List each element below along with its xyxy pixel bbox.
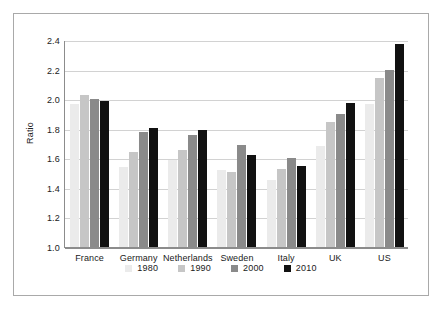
- legend-label: 2010: [296, 263, 317, 273]
- bar[interactable]: [237, 145, 246, 247]
- bar[interactable]: [100, 101, 109, 247]
- y-axis-tick-label: 2.2: [47, 66, 60, 76]
- legend-item[interactable]: 2010: [284, 263, 317, 273]
- y-axis-tick-label: 2.0: [47, 95, 60, 105]
- bar[interactable]: [346, 103, 355, 247]
- legend-label: 2000: [243, 263, 264, 273]
- bar-group: Netherlands: [163, 41, 212, 247]
- bar[interactable]: [316, 146, 325, 247]
- bar[interactable]: [395, 44, 404, 247]
- bar[interactable]: [385, 70, 394, 247]
- x-axis-category-label: Netherlands: [163, 253, 213, 263]
- bar-group: Sweden: [212, 41, 261, 247]
- x-axis-category-label: UK: [329, 253, 342, 263]
- bar[interactable]: [297, 166, 306, 247]
- bar[interactable]: [247, 155, 256, 247]
- chart-legend: 1980199020002010: [14, 263, 428, 273]
- bar[interactable]: [217, 170, 226, 247]
- bar[interactable]: [326, 122, 335, 247]
- bar[interactable]: [168, 160, 177, 247]
- bar[interactable]: [365, 104, 374, 247]
- bar[interactable]: [198, 130, 207, 247]
- bar[interactable]: [119, 167, 128, 247]
- y-axis-tick-label: 1.2: [47, 213, 60, 223]
- legend-item[interactable]: 1980: [125, 263, 158, 273]
- bar[interactable]: [70, 104, 79, 247]
- chart-frame: Ratio 2.42.22.01.81.61.41.21.0 FranceGer…: [13, 13, 429, 296]
- legend-item[interactable]: 2000: [231, 263, 264, 273]
- legend-label: 1980: [137, 263, 158, 273]
- bar[interactable]: [139, 132, 148, 247]
- y-axis-tick-label: 2.4: [47, 36, 60, 46]
- legend-swatch-icon: [231, 265, 238, 272]
- legend-label: 1990: [190, 263, 211, 273]
- bar[interactable]: [149, 128, 158, 247]
- bar[interactable]: [178, 150, 187, 247]
- y-axis-tick-label: 1.8: [47, 125, 60, 135]
- y-axis-tick-label: 1.4: [47, 184, 60, 194]
- x-axis-category-label: US: [378, 253, 391, 263]
- y-axis-tick-label: 1.0: [47, 243, 60, 253]
- y-axis-title: Ratio: [25, 122, 35, 144]
- bar[interactable]: [277, 169, 286, 247]
- legend-item[interactable]: 1990: [178, 263, 211, 273]
- x-axis-category-label: France: [75, 253, 104, 263]
- x-axis-category-label: Germany: [120, 253, 158, 263]
- bar[interactable]: [188, 135, 197, 247]
- bar-group: France: [65, 41, 114, 247]
- bar[interactable]: [90, 99, 99, 247]
- bar[interactable]: [227, 172, 236, 247]
- x-axis-category-label: Italy: [278, 253, 295, 263]
- bar[interactable]: [336, 114, 345, 247]
- bar-group: Italy: [262, 41, 311, 247]
- bar-group: Germany: [114, 41, 163, 247]
- bar[interactable]: [129, 152, 138, 247]
- bar[interactable]: [267, 180, 276, 247]
- y-axis-tick-label: 1.6: [47, 154, 60, 164]
- bar-group: US: [360, 41, 409, 247]
- bar[interactable]: [287, 158, 296, 247]
- bar[interactable]: [375, 78, 384, 247]
- bar[interactable]: [80, 95, 89, 247]
- legend-swatch-icon: [284, 265, 291, 272]
- legend-swatch-icon: [125, 265, 132, 272]
- x-axis-category-label: Sweden: [220, 253, 253, 263]
- gridline: 1.0: [65, 248, 408, 249]
- legend-swatch-icon: [178, 265, 185, 272]
- plot-area: 2.42.22.01.81.61.41.21.0 FranceGermanyNe…: [64, 41, 408, 248]
- bar-group: UK: [311, 41, 360, 247]
